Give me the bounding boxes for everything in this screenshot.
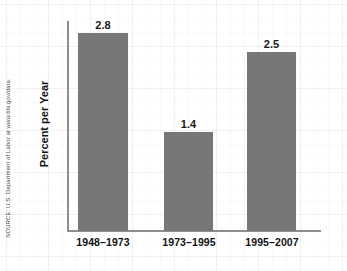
bar-value-1: 1.4	[164, 118, 213, 130]
y-axis-line	[67, 21, 69, 232]
bar-2[interactable]	[247, 52, 296, 231]
bar-1[interactable]	[164, 132, 213, 231]
bar-chart-plot: Percent per Year 2.8 1948–1973 1.4 1973–…	[0, 0, 347, 271]
category-label-2: 1995–2007	[217, 236, 327, 248]
source-note: SOURCE: U.S. Department of Labor at www.…	[5, 58, 11, 258]
y-axis-label: Percent per Year	[38, 64, 50, 184]
chart-page: Percent per Year 2.8 1948–1973 1.4 1973–…	[0, 0, 347, 271]
bar-value-0: 2.8	[78, 19, 128, 31]
bar-0[interactable]	[78, 33, 128, 231]
bar-value-2: 2.5	[247, 38, 296, 50]
